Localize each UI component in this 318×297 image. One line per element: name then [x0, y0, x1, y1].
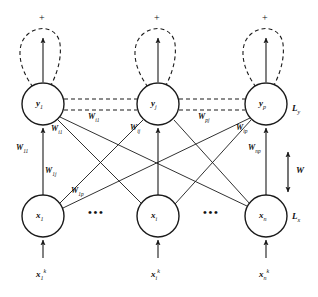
input-sup-xnk: k: [267, 268, 270, 274]
weight-sub-i1: i1: [58, 129, 62, 135]
node-label-y1: y1: [36, 99, 43, 110]
weight-label-11: W11: [16, 144, 28, 154]
node-circle-y1: [22, 83, 64, 125]
ellipsis-right: •••: [203, 206, 219, 218]
node-sub-yp: p: [263, 104, 266, 110]
input-sup-xik: k: [157, 268, 160, 274]
node-sub-yj: j: [155, 104, 157, 110]
node-sub-xn: n: [264, 216, 267, 222]
weight-label-1p: W1p: [71, 187, 84, 197]
weight-label-ip: Wip: [236, 124, 247, 134]
self-loop-group-y1: [20, 29, 60, 87]
weight-sub-np: np: [255, 148, 261, 154]
node-sub-y1: 1: [40, 104, 43, 110]
layer-label-input: Lx: [292, 212, 300, 223]
self-loop-group-yj: [135, 29, 175, 87]
external-input-arrows: [43, 240, 266, 258]
node-circle-xi: [137, 195, 179, 237]
node-label-xn: xn: [259, 211, 267, 222]
self-loop-group-yp: [243, 29, 283, 87]
node-label-yp: yp: [259, 99, 266, 110]
ellipsis-left: •••: [88, 206, 104, 218]
node-label-x1: x1: [36, 211, 44, 222]
input-label-x1k: x1k: [36, 268, 46, 281]
weight-sub-ip: ip: [243, 128, 247, 134]
layer-label-output: Ly: [292, 104, 300, 115]
weight-label-np: Wnp: [248, 144, 261, 154]
weight-sub-lateral-pj: pj: [205, 117, 209, 123]
input-sup-x1k: k: [44, 268, 47, 274]
plus-sign-icon-yj: +: [154, 13, 160, 23]
weight-label-i1: Wi1: [51, 125, 62, 135]
node-circle-yj: [137, 83, 179, 125]
input-label-xik: xik: [151, 268, 160, 281]
node-label-yj: yj: [151, 99, 157, 110]
weight-sub-1j: 1j: [52, 171, 56, 177]
node-sub-xi: i: [156, 216, 158, 222]
node-circle-yp: [245, 83, 287, 125]
weight-label-ij: Wij: [130, 124, 140, 134]
diagram-vector-layer: [0, 0, 318, 297]
layer-sub-input: x: [298, 217, 301, 223]
figure-canvas: + + + y1 yj yp x1 xi xn Wi1 Wpj W11 Wi1 …: [0, 0, 318, 297]
input-sub-x1k: 1: [41, 275, 44, 281]
node-sub-x1: 1: [41, 216, 44, 222]
layer-sub-output: y: [298, 109, 301, 115]
weight-sub-ij: ij: [137, 128, 140, 134]
input-sub-xik: i: [156, 275, 158, 281]
weight-matrix-label: W: [296, 166, 304, 175]
weight-sub-lateral-i1: i1: [95, 117, 99, 123]
weight-label-1j: W1j: [45, 167, 56, 177]
weight-label-lateral-pj: Wpj: [198, 113, 209, 123]
node-label-xi: xi: [151, 211, 157, 222]
plus-sign-icon-yp: +: [262, 13, 268, 23]
weight-sub-1p: 1p: [78, 191, 84, 197]
plus-sign-icon-y1: +: [39, 13, 45, 23]
weight-label-lateral-i1: Wi1: [88, 113, 99, 123]
input-label-xnk: xnk: [259, 268, 269, 281]
input-sub-xnk: n: [264, 275, 267, 281]
weight-sub-11: 11: [23, 148, 28, 154]
